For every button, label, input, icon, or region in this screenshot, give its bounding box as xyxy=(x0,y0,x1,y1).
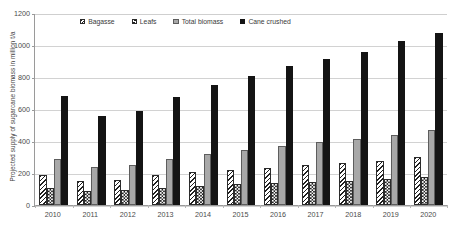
x-tick-mark-2017 xyxy=(298,205,299,208)
bar-leafs-2016[interactable] xyxy=(271,183,278,205)
bar-group-2014 xyxy=(185,14,222,205)
bar-total-2011[interactable] xyxy=(91,167,98,205)
bar-group-2012 xyxy=(110,14,147,205)
bar-bagasse-2020[interactable] xyxy=(414,157,421,205)
bar-cane-2010[interactable] xyxy=(61,96,68,205)
bar-cane-2014[interactable] xyxy=(211,85,218,205)
y-tick-mark-600 xyxy=(32,110,35,111)
x-tick-mark-2010 xyxy=(35,205,36,208)
bar-group-2018 xyxy=(335,14,372,205)
bar-bagasse-2016[interactable] xyxy=(264,168,271,205)
y-tick-label-200: 200 xyxy=(4,170,30,177)
legend-label: Total biomass xyxy=(182,18,224,25)
bar-cane-2019[interactable] xyxy=(398,41,405,205)
total-biomass-swatch-icon xyxy=(173,19,178,24)
bar-cane-2015[interactable] xyxy=(248,76,255,205)
leafs-swatch-icon xyxy=(132,19,137,24)
bar-leafs-2018[interactable] xyxy=(346,181,353,205)
bar-bagasse-2012[interactable] xyxy=(114,180,121,205)
x-tick-mark-2014 xyxy=(185,205,186,208)
y-tick-mark-200 xyxy=(32,174,35,175)
bar-cane-2012[interactable] xyxy=(136,111,143,205)
bar-chart: Projected supply of sugarcane biomass in… xyxy=(0,0,453,241)
bar-total-2018[interactable] xyxy=(353,139,360,205)
x-tick-label-2012: 2012 xyxy=(109,209,147,225)
bar-cane-2013[interactable] xyxy=(173,97,180,205)
x-tick-label-2017: 2017 xyxy=(297,209,335,225)
x-tick-mark-2016 xyxy=(260,205,261,208)
bar-group-2011 xyxy=(72,14,109,205)
bar-leafs-2017[interactable] xyxy=(309,182,316,205)
bar-bagasse-2015[interactable] xyxy=(227,170,234,205)
gridline-0 xyxy=(35,206,447,207)
x-axis-tick-labels: 2010201120122013201420152016201720182019… xyxy=(34,209,447,225)
x-tick-label-2016: 2016 xyxy=(259,209,297,225)
bar-leafs-2012[interactable] xyxy=(121,190,128,205)
bar-leafs-2015[interactable] xyxy=(234,184,241,205)
bar-bagasse-2013[interactable] xyxy=(152,175,159,205)
x-tick-mark-2013 xyxy=(148,205,149,208)
bar-bagasse-2014[interactable] xyxy=(189,172,196,205)
bar-total-2014[interactable] xyxy=(204,154,211,205)
cane-crushed-swatch-icon xyxy=(240,19,245,24)
bar-total-2020[interactable] xyxy=(428,130,435,205)
bar-group-2016 xyxy=(260,14,297,205)
y-tick-mark-1200 xyxy=(32,14,35,15)
y-tick-mark-1000 xyxy=(32,46,35,47)
bar-bagasse-2018[interactable] xyxy=(339,163,346,205)
bar-cane-2020[interactable] xyxy=(435,33,442,205)
y-tick-label-400: 400 xyxy=(4,138,30,145)
legend-item-cane[interactable]: Cane crushed xyxy=(240,18,291,25)
y-tick-mark-400 xyxy=(32,142,35,143)
bar-total-2012[interactable] xyxy=(129,165,136,205)
x-tick-mark-2012 xyxy=(110,205,111,208)
bar-leafs-2010[interactable] xyxy=(47,188,54,205)
bar-leafs-2019[interactable] xyxy=(384,179,391,205)
bar-group-2013 xyxy=(147,14,184,205)
y-tick-mark-800 xyxy=(32,78,35,79)
legend-item-leafs[interactable]: Leafs xyxy=(132,18,157,25)
bar-cane-2011[interactable] xyxy=(98,116,105,205)
bar-leafs-2020[interactable] xyxy=(421,177,428,205)
bar-bagasse-2019[interactable] xyxy=(376,161,383,205)
legend-label: Leafs xyxy=(140,18,157,25)
bar-leafs-2013[interactable] xyxy=(159,188,166,205)
bar-groups xyxy=(35,14,447,205)
x-tick-label-2010: 2010 xyxy=(34,209,72,225)
bar-group-2010 xyxy=(35,14,72,205)
bar-cane-2016[interactable] xyxy=(286,66,293,205)
bar-group-2017 xyxy=(297,14,334,205)
legend-item-total[interactable]: Total biomass xyxy=(173,18,223,25)
bar-leafs-2014[interactable] xyxy=(196,186,203,205)
bar-bagasse-2011[interactable] xyxy=(77,181,84,205)
bar-group-2015 xyxy=(222,14,259,205)
bar-total-2015[interactable] xyxy=(241,150,248,205)
x-tick-mark-2020 xyxy=(410,205,411,208)
bar-total-2019[interactable] xyxy=(391,135,398,205)
x-tick-label-2013: 2013 xyxy=(147,209,185,225)
bar-group-2020 xyxy=(410,14,447,205)
y-tick-label-600: 600 xyxy=(4,106,30,113)
chart-legend: BagasseLeafsTotal biomassCane crushed xyxy=(80,18,291,25)
x-tick-label-2015: 2015 xyxy=(222,209,260,225)
bar-leafs-2011[interactable] xyxy=(84,191,91,205)
x-tick-label-2018: 2018 xyxy=(334,209,372,225)
bar-total-2016[interactable] xyxy=(278,146,285,205)
x-tick-mark-2018 xyxy=(335,205,336,208)
bagasse-swatch-icon xyxy=(80,19,85,24)
bar-bagasse-2017[interactable] xyxy=(302,165,309,205)
bar-bagasse-2010[interactable] xyxy=(39,175,46,205)
legend-label: Cane crushed xyxy=(248,18,290,25)
x-tick-label-2020: 2020 xyxy=(409,209,447,225)
x-tick-label-2019: 2019 xyxy=(372,209,410,225)
plot-area xyxy=(34,14,447,206)
bar-cane-2018[interactable] xyxy=(361,52,368,205)
bar-group-2019 xyxy=(372,14,409,205)
bar-cane-2017[interactable] xyxy=(323,59,330,205)
legend-item-bagasse[interactable]: Bagasse xyxy=(80,18,115,25)
bar-total-2017[interactable] xyxy=(316,142,323,205)
x-tick-mark-2015 xyxy=(223,205,224,208)
bar-total-2010[interactable] xyxy=(54,159,61,205)
x-tick-mark-2011 xyxy=(73,205,74,208)
bar-total-2013[interactable] xyxy=(166,159,173,205)
